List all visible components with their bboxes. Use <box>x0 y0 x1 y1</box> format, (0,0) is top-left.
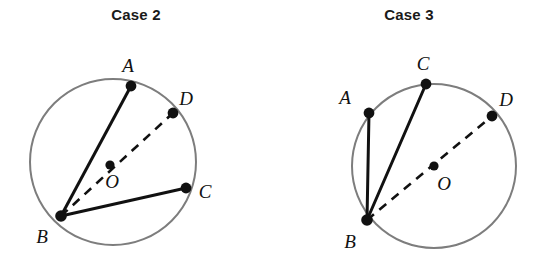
case-3-diameter-b-d-dashed <box>367 116 492 220</box>
case-2-label-c: C <box>199 181 212 202</box>
case-panel-3: Case 3 A B C D O <box>273 0 545 261</box>
case-3-label-b: B <box>344 231 356 252</box>
case-3-chord-b-c <box>367 84 426 220</box>
case-3-point-d <box>487 111 498 122</box>
case-3-center-point-o <box>429 161 438 170</box>
case-3-point-a <box>364 108 375 119</box>
case-2-label-a: A <box>120 55 134 76</box>
case-3-point-c <box>421 79 432 90</box>
case-panel-2: Case 2 A B C D O <box>0 0 272 261</box>
case-2-chord-b-a <box>61 86 131 216</box>
case-2-label-o: O <box>105 171 119 192</box>
case-2-point-c <box>181 183 192 194</box>
case-2-point-d <box>168 108 179 119</box>
case-2-label-b: B <box>36 226 48 247</box>
case-2-diameter-b-d-dashed <box>61 113 173 216</box>
case-3-label-a: A <box>337 87 351 108</box>
geometry-figure-board: Case 2 A B C D O Case 3 <box>0 0 545 261</box>
case-3-label-d: D <box>498 89 513 110</box>
case-2-point-a <box>126 81 137 92</box>
case-3-label-c: C <box>417 53 430 74</box>
case-3-diagram: A B C D O <box>273 0 545 261</box>
case-2-chord-b-c <box>61 188 186 216</box>
case-2-point-b <box>55 210 67 222</box>
case-3-label-o: O <box>437 173 451 194</box>
case-3-point-b <box>361 214 373 226</box>
case-3-chord-b-a <box>367 113 369 220</box>
case-2-center-point-o <box>105 160 114 169</box>
case-2-label-d: D <box>178 88 193 109</box>
case-2-diagram: A B C D O <box>0 0 272 261</box>
